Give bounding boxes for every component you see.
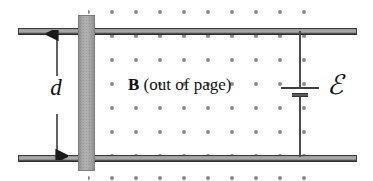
field-note: (out of page) <box>144 75 232 94</box>
field-dot <box>134 106 138 110</box>
field-dot <box>278 176 282 180</box>
field-dot <box>110 10 114 14</box>
field-dot <box>182 176 186 180</box>
field-dot <box>158 106 162 110</box>
field-dot <box>278 106 282 110</box>
field-dot <box>110 176 114 180</box>
field-dot <box>206 130 210 134</box>
field-dot <box>110 82 114 86</box>
field-dot <box>158 130 162 134</box>
field-dot <box>254 130 258 134</box>
field-dot <box>230 58 234 62</box>
field-dot <box>206 10 210 14</box>
field-dot <box>206 176 210 180</box>
field-annotation: B (out of page) <box>128 76 231 93</box>
battery-positive-plate <box>281 87 319 89</box>
battery-negative-plate <box>292 93 308 97</box>
emf-label: ℰ <box>327 72 343 99</box>
field-dot <box>302 130 306 134</box>
field-dot <box>254 82 258 86</box>
sliding-conductor-bar <box>78 15 95 171</box>
field-dot <box>110 58 114 62</box>
field-dot <box>182 58 186 62</box>
field-dot <box>230 10 234 14</box>
physics-diagram: d B (out of page) ℰ <box>0 0 373 181</box>
field-dot <box>110 130 114 134</box>
field-dot <box>278 130 282 134</box>
field-dot <box>230 176 234 180</box>
field-dot <box>158 10 162 14</box>
field-dot <box>302 106 306 110</box>
field-dot <box>302 82 306 86</box>
field-dot <box>182 10 186 14</box>
upper-circuit-wire <box>299 31 301 88</box>
field-dot <box>254 10 258 14</box>
field-dot <box>230 106 234 110</box>
field-dot <box>182 106 186 110</box>
field-symbol: B <box>128 75 139 94</box>
field-dot <box>88 10 90 14</box>
field-dot <box>302 10 306 14</box>
bottom-rail <box>18 155 357 162</box>
field-dot <box>88 176 90 180</box>
lower-circuit-wire <box>299 96 301 157</box>
field-dot <box>134 10 138 14</box>
field-dot <box>230 130 234 134</box>
field-dot <box>134 58 138 62</box>
field-dot <box>134 176 138 180</box>
field-dot <box>134 130 138 134</box>
field-dot <box>278 58 282 62</box>
field-dot <box>278 10 282 14</box>
field-dot <box>302 58 306 62</box>
field-dot <box>206 106 210 110</box>
field-dot <box>206 58 210 62</box>
field-dot <box>278 82 282 86</box>
field-dot <box>254 58 258 62</box>
field-dot <box>302 176 306 180</box>
field-dot <box>158 58 162 62</box>
field-dot <box>254 106 258 110</box>
top-rail <box>18 28 357 35</box>
field-dot <box>254 176 258 180</box>
field-dot <box>110 106 114 110</box>
field-dot <box>158 176 162 180</box>
field-dot <box>182 130 186 134</box>
separation-label: d <box>36 76 76 99</box>
